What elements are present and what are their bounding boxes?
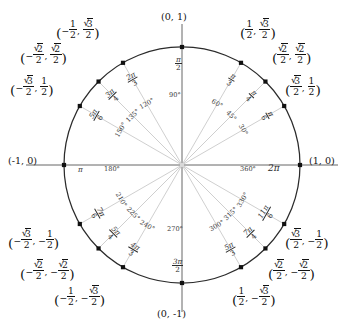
point-marker-240 bbox=[121, 265, 125, 269]
point-marker-150 bbox=[78, 104, 82, 108]
point-marker-30 bbox=[282, 104, 286, 108]
coord-label-135: (−22, 22) bbox=[20, 43, 67, 64]
coord-label-225: (−22, −22) bbox=[20, 259, 75, 280]
coord-label-150: (−32, 12) bbox=[10, 75, 54, 96]
radian-label-90: π2 bbox=[175, 56, 182, 72]
unit-circle-figure: (0, 1) (0, -1) (-1, 0) (1, 0) π 180° 2π … bbox=[0, 0, 357, 330]
coord-label-330: (32, −12) bbox=[285, 228, 329, 249]
coord-label-315: (22, −22) bbox=[268, 259, 315, 280]
axis-label-left: (-1, 0) bbox=[8, 156, 37, 166]
point-marker-45 bbox=[263, 79, 267, 83]
axis-label-top: (0, 1) bbox=[161, 12, 187, 22]
point-marker-300 bbox=[239, 265, 243, 269]
coord-label-60: (12, 32) bbox=[240, 18, 276, 39]
degree-label-180: 180° bbox=[104, 166, 120, 173]
coord-label-45: (22, 22) bbox=[272, 43, 311, 64]
point-marker-0 bbox=[298, 163, 302, 167]
origin-marker bbox=[180, 163, 184, 167]
degree-label-360: 360° bbox=[240, 166, 256, 173]
point-marker-225 bbox=[96, 246, 100, 250]
degree-label-270: 270° bbox=[167, 226, 183, 233]
point-marker-270 bbox=[180, 281, 184, 285]
axis-label-bottom: (0, -1) bbox=[157, 309, 186, 319]
point-marker-315 bbox=[263, 246, 267, 250]
coord-label-120: (−12, 32) bbox=[56, 18, 100, 39]
point-marker-330 bbox=[282, 222, 286, 226]
radian-label-180: π bbox=[78, 166, 83, 173]
coord-label-30: (32, 12) bbox=[285, 75, 321, 96]
axis-label-right: (1, 0) bbox=[309, 156, 335, 166]
point-marker-60 bbox=[239, 61, 243, 65]
point-marker-180 bbox=[62, 163, 66, 167]
coord-label-210: (−32, −12) bbox=[8, 228, 59, 249]
degree-label-90: 90° bbox=[169, 92, 181, 99]
point-marker-210 bbox=[78, 222, 82, 226]
point-marker-120 bbox=[121, 61, 125, 65]
point-marker-135 bbox=[96, 79, 100, 83]
radian-label-360: 2π bbox=[268, 164, 280, 173]
coord-label-300: (12, −32) bbox=[232, 285, 276, 306]
point-marker-90 bbox=[180, 45, 184, 49]
radian-label-270: 3π2 bbox=[172, 258, 183, 274]
coord-label-240: (−12, −32) bbox=[54, 285, 105, 306]
